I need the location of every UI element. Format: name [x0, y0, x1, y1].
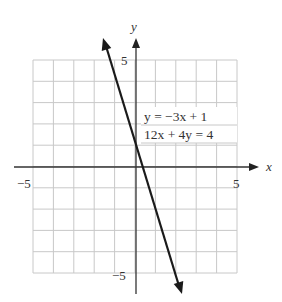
x-tick-label-min: −5 [17, 176, 31, 191]
y-tick-label-max: 5 [121, 53, 128, 68]
line-arrow-down-icon [174, 281, 184, 294]
x-axis-label: x [265, 159, 272, 174]
y-tick-label-min: −5 [112, 268, 126, 283]
equation-standard-form: 12x + 4y = 4 [144, 127, 213, 142]
coordinate-graph: x y −5 5 5 −5 y = −3x + 1 12x + 4y = 4 [0, 0, 282, 302]
line-arrow-up-icon [102, 38, 112, 51]
x-tick-label-max: 5 [233, 176, 240, 191]
y-axis-label: y [129, 19, 137, 34]
y-axis-arrow-icon [132, 38, 140, 48]
equation-slope-intercept: y = −3x + 1 [144, 109, 207, 124]
x-axis-arrow-icon [249, 163, 259, 171]
